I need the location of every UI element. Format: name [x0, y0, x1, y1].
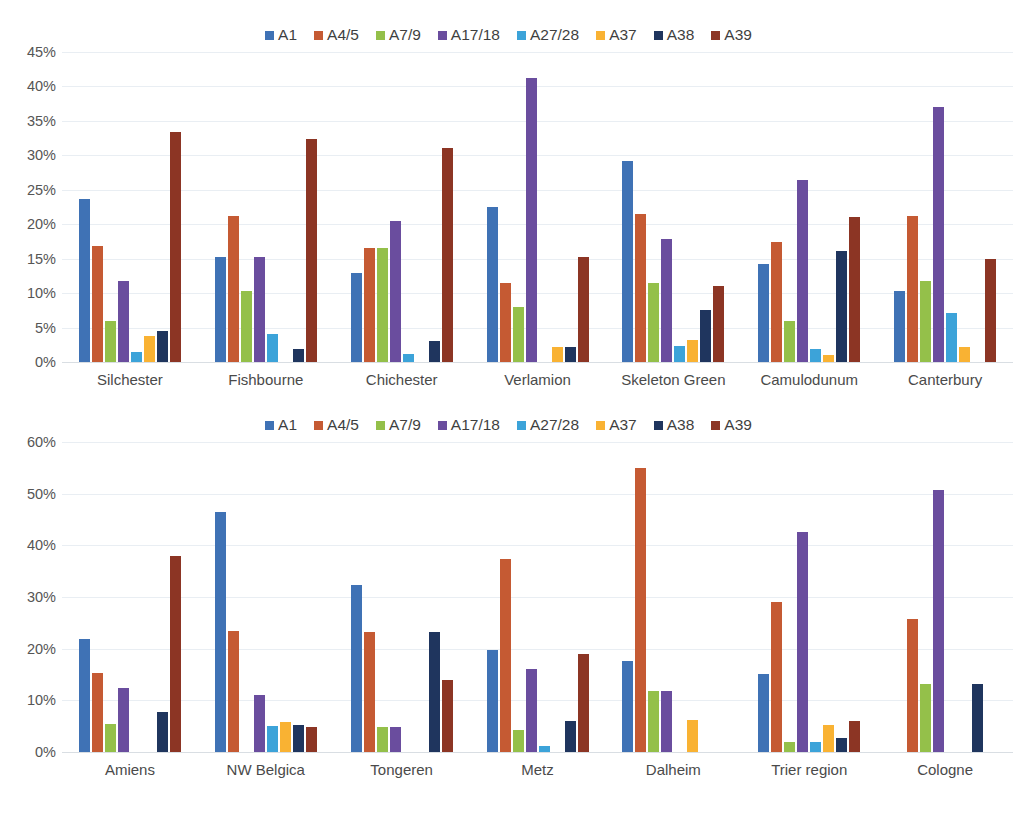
bar[interactable] [661, 239, 672, 362]
bar[interactable] [513, 730, 524, 752]
legend-item[interactable]: A7/9 [376, 26, 421, 44]
bar[interactable] [907, 216, 918, 362]
bar[interactable] [526, 669, 537, 752]
bar[interactable] [293, 349, 304, 362]
legend-item[interactable]: A4/5 [314, 416, 359, 434]
bar[interactable] [306, 139, 317, 362]
bar[interactable] [959, 347, 970, 362]
bar[interactable] [687, 720, 698, 752]
bar[interactable] [403, 354, 414, 362]
bar[interactable] [797, 180, 808, 362]
bar[interactable] [487, 207, 498, 362]
bar[interactable] [810, 349, 821, 362]
legend-item[interactable]: A7/9 [376, 416, 421, 434]
legend-item[interactable]: A38 [654, 26, 695, 44]
bar[interactable] [241, 291, 252, 362]
bar[interactable] [823, 355, 834, 362]
bar[interactable] [836, 738, 847, 752]
bar[interactable] [810, 742, 821, 752]
bar[interactable] [713, 286, 724, 362]
bar[interactable] [758, 674, 769, 752]
bar[interactable] [92, 673, 103, 752]
bar[interactable] [364, 248, 375, 362]
bar[interactable] [293, 725, 304, 752]
bar[interactable] [500, 283, 511, 362]
legend-item[interactable]: A17/18 [438, 26, 500, 44]
bar[interactable] [661, 691, 672, 752]
bar[interactable] [442, 148, 453, 362]
bar[interactable] [79, 639, 90, 752]
bar[interactable] [364, 632, 375, 752]
bar[interactable] [674, 346, 685, 362]
bar[interactable] [228, 631, 239, 752]
bar[interactable] [894, 291, 905, 362]
bar[interactable] [972, 684, 983, 752]
bar[interactable] [429, 632, 440, 752]
bar[interactable] [267, 726, 278, 752]
bar[interactable] [920, 684, 931, 752]
bar[interactable] [907, 619, 918, 752]
bar[interactable] [836, 251, 847, 362]
legend-item[interactable]: A27/28 [517, 26, 579, 44]
legend-item[interactable]: A27/28 [517, 416, 579, 434]
bar[interactable] [946, 313, 957, 362]
bar[interactable] [565, 721, 576, 752]
bar[interactable] [635, 468, 646, 752]
bar[interactable] [933, 490, 944, 752]
bar[interactable] [170, 132, 181, 362]
bar[interactable] [351, 273, 362, 362]
bar[interactable] [849, 217, 860, 362]
bar[interactable] [267, 334, 278, 362]
legend-item[interactable]: A37 [596, 416, 637, 434]
bar[interactable] [215, 512, 226, 752]
bar[interactable] [254, 695, 265, 752]
bar[interactable] [306, 727, 317, 752]
bar[interactable] [771, 602, 782, 752]
bar[interactable] [79, 199, 90, 362]
bar[interactable] [784, 321, 795, 362]
bar[interactable] [390, 221, 401, 362]
bar[interactable] [565, 347, 576, 362]
legend-item[interactable]: A38 [654, 416, 695, 434]
bar[interactable] [797, 532, 808, 752]
legend-item[interactable]: A39 [711, 416, 752, 434]
bar[interactable] [254, 257, 265, 362]
bar[interactable] [377, 727, 388, 752]
bar[interactable] [849, 721, 860, 752]
bar[interactable] [552, 347, 563, 362]
bar[interactable] [442, 680, 453, 752]
bar[interactable] [92, 246, 103, 362]
bar[interactable] [578, 654, 589, 752]
bar[interactable] [648, 283, 659, 362]
bar[interactable] [105, 724, 116, 752]
bar[interactable] [622, 161, 633, 362]
bar[interactable] [280, 722, 291, 752]
bar[interactable] [118, 688, 129, 752]
bar[interactable] [144, 336, 155, 362]
bar[interactable] [429, 341, 440, 362]
bar[interactable] [390, 727, 401, 752]
bar[interactable] [500, 559, 511, 752]
bar[interactable] [228, 216, 239, 362]
bar[interactable] [758, 264, 769, 363]
legend-item[interactable]: A37 [596, 26, 637, 44]
bar[interactable] [622, 661, 633, 752]
bar[interactable] [157, 712, 168, 752]
bar[interactable] [578, 257, 589, 362]
bar[interactable] [526, 78, 537, 362]
bar[interactable] [513, 307, 524, 362]
bar[interactable] [487, 650, 498, 752]
bar[interactable] [687, 340, 698, 362]
legend-item[interactable]: A1 [265, 26, 297, 44]
legend-item[interactable]: A39 [711, 26, 752, 44]
bar[interactable] [985, 259, 996, 362]
legend-item[interactable]: A4/5 [314, 26, 359, 44]
bar[interactable] [700, 310, 711, 362]
bar[interactable] [157, 331, 168, 362]
bar[interactable] [351, 585, 362, 752]
bar[interactable] [105, 321, 116, 362]
bar[interactable] [771, 242, 782, 362]
bar[interactable] [648, 691, 659, 752]
legend-item[interactable]: A17/18 [438, 416, 500, 434]
bar[interactable] [377, 248, 388, 362]
